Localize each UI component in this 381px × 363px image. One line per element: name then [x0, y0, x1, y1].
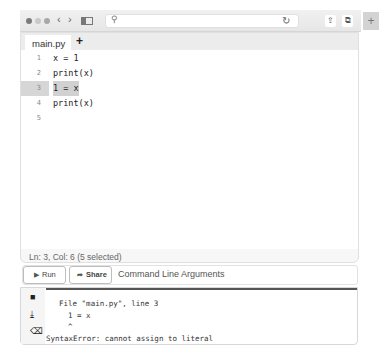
line-text[interactable]: print(x) — [53, 96, 94, 111]
line-number: 5 — [21, 111, 49, 126]
share-icon[interactable]: ⇪ — [325, 15, 336, 27]
error-message: SyntaxError: cannot assign to literal — [46, 334, 213, 343]
tabs-overview-icon[interactable]: ⧉ — [342, 15, 353, 27]
add-file-button[interactable]: + — [76, 34, 83, 48]
code-line-active: 3 1 = x — [21, 81, 358, 96]
code-line: 5 — [21, 111, 358, 126]
line-text[interactable]: x = 1 — [53, 51, 79, 66]
line-number: 3 — [21, 81, 49, 96]
minimize-window-button[interactable] — [35, 18, 41, 24]
line-text-selected[interactable]: 1 = x — [53, 81, 79, 96]
output-line: ^ — [50, 322, 73, 331]
line-number: 1 — [21, 51, 49, 66]
code-line: 2 print(x) — [21, 66, 358, 81]
output-panel: ■ ⤓ ⌫ File "main.py", line 3 1 = x ^ Syn… — [20, 287, 358, 345]
download-icon[interactable]: ⤓ — [30, 309, 34, 320]
share-button[interactable]: ➦Share — [69, 266, 112, 284]
back-icon[interactable]: ‹ — [57, 13, 61, 25]
output-line: 1 = x — [50, 311, 91, 320]
stop-icon[interactable]: ■ — [30, 292, 35, 302]
zoom-window-button[interactable] — [44, 18, 50, 24]
forward-icon[interactable]: › — [68, 13, 72, 25]
new-tab-button[interactable]: + — [363, 12, 379, 30]
clear-icon[interactable]: ⌫ — [30, 326, 43, 336]
action-bar: ▶Run ➦Share Command Line Arguments — [22, 265, 358, 285]
code-area[interactable]: 1 x = 1 2 print(x) 3 1 = x 4 print(x) 5 — [21, 50, 358, 249]
close-window-button[interactable] — [26, 18, 32, 24]
command-line-arguments-input[interactable]: Command Line Arguments — [118, 269, 225, 279]
run-label: Run — [42, 270, 56, 279]
sidebar-toggle-icon[interactable] — [81, 17, 93, 25]
code-line: 4 print(x) — [21, 96, 358, 111]
search-icon: ⚲ — [111, 14, 118, 24]
reload-icon[interactable]: ↻ — [282, 15, 290, 26]
cursor-status: Ln: 3, Col: 6 (5 selected) — [29, 252, 122, 262]
line-text[interactable]: print(x) — [53, 66, 94, 81]
share-label: Share — [86, 270, 107, 279]
output-toolbar: ■ ⤓ ⌫ — [21, 288, 45, 344]
tab-main-py[interactable]: main.py — [25, 35, 71, 50]
line-number: 2 — [21, 66, 49, 81]
play-icon: ▶ — [34, 271, 39, 278]
line-number: 4 — [21, 96, 49, 111]
share-arrow-icon: ➦ — [77, 271, 83, 278]
address-bar[interactable]: ⚲ ↻ — [105, 14, 299, 28]
file-tab-bar: main.py + — [21, 33, 358, 50]
output-console[interactable]: File "main.py", line 3 1 = x ^ SyntaxErr… — [46, 288, 357, 344]
output-line: File "main.py", line 3 — [50, 299, 158, 308]
browser-toolbar: ‹ › ⚲ ↻ ⇪ ⧉ + — [20, 10, 361, 32]
code-editor: main.py + 1 x = 1 2 print(x) 3 1 = x 4 p… — [20, 32, 359, 263]
run-button[interactable]: ▶Run — [23, 266, 66, 284]
code-line: 1 x = 1 — [21, 51, 358, 66]
